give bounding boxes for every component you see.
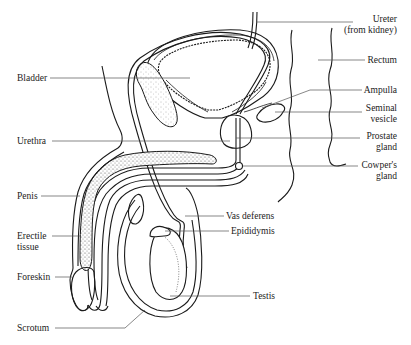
- rectum-shape: [278, 28, 346, 202]
- label-ampulla: Ampulla: [364, 85, 397, 96]
- cowpers-gland-shape: [236, 163, 243, 170]
- scrotum-fold: [129, 194, 144, 224]
- label-seminal-vesicle-line2: vesicle: [371, 114, 397, 125]
- label-scrotum: Scrotum: [17, 323, 49, 334]
- testis-shape: [150, 228, 187, 300]
- label-rectum: Rectum: [367, 55, 397, 66]
- label-urethra: Urethra: [17, 136, 46, 147]
- label-cowpers-line2: gland: [376, 171, 397, 182]
- label-foreskin: Foreskin: [17, 272, 50, 283]
- label-ureter-line2: (from kidney): [344, 25, 397, 36]
- label-bladder: Bladder: [17, 73, 47, 84]
- leader-scrotum: [55, 310, 145, 328]
- glans-shape: [72, 268, 95, 311]
- glans-shape-2: [96, 306, 108, 311]
- label-penis: Penis: [17, 191, 38, 202]
- label-prostate-line2: gland: [376, 142, 397, 153]
- label-erectile-tissue-line2: tissue: [17, 242, 39, 253]
- label-prostate-line1: Prostate: [366, 131, 397, 142]
- epididymis-shape: [150, 226, 170, 236]
- label-seminal-vesicle-line1: Seminal: [366, 103, 397, 114]
- label-testis: Testis: [253, 291, 275, 302]
- label-cowpers-line1: Cowper's: [362, 160, 398, 171]
- label-vas-deferens: Vas deferens: [226, 211, 274, 222]
- label-erectile-tissue-line1: Erectile: [17, 231, 47, 242]
- label-epididymis: Epididymis: [231, 226, 275, 237]
- label-ureter-line1: Ureter: [373, 14, 397, 25]
- anatomy-diagram: [0, 0, 411, 345]
